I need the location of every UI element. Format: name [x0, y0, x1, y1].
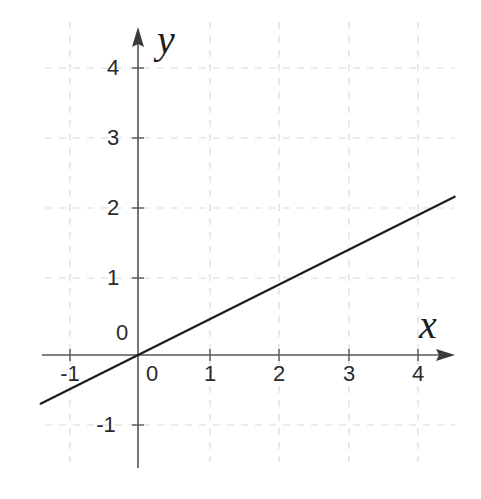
x-tick-label-2: 2 — [266, 363, 292, 385]
y-axis-label: y — [157, 20, 175, 60]
chart-plot-area — [0, 0, 481, 499]
x-axis-label: x — [419, 305, 437, 345]
x-tick-label-3: 3 — [336, 363, 362, 385]
grid-lines — [45, 22, 455, 462]
y-tick-label-0: 0 — [109, 322, 135, 344]
x-tick-label-neg1: -1 — [55, 363, 85, 385]
y-tick-label-1: 1 — [100, 267, 126, 289]
y-tick-label-3: 3 — [100, 127, 126, 149]
x-tick-label-0: 0 — [139, 363, 165, 385]
y-tick-label-2: 2 — [100, 197, 126, 219]
y-tick-label-4: 4 — [100, 57, 126, 79]
axis-lines — [42, 32, 448, 468]
y-axis-arrow-icon — [132, 27, 144, 47]
x-tick-label-4: 4 — [405, 363, 431, 385]
chart-figure: -1 0 1 2 3 4 4 3 2 1 0 -1 y x — [0, 0, 481, 499]
data-series-line — [41, 197, 455, 404]
y-tick-label-neg1: -1 — [91, 414, 121, 436]
x-tick-label-1: 1 — [197, 363, 223, 385]
